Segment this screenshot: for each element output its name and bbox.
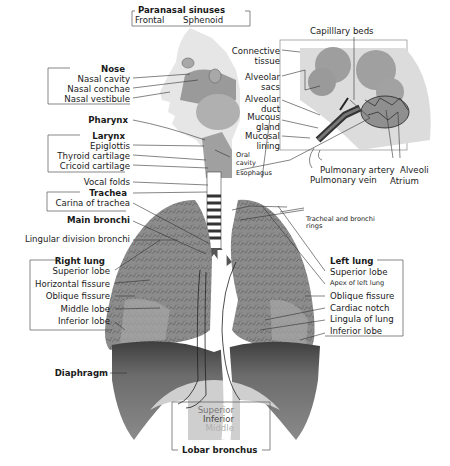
- larynx-title: Larynx: [92, 131, 125, 141]
- lingular-division-bronchi-label: Lingular division bronchi: [25, 234, 130, 244]
- sphenoid-sinus-label: Sphenoid: [183, 15, 223, 25]
- lobar-bronchus-title: Lobar bronchus: [182, 445, 257, 455]
- mucous-gland-label: Mucous gland: [234, 112, 280, 132]
- tracheal-rings-label-2: rings: [306, 223, 322, 231]
- thyroid-cartilage-label: Thyroid cartilage: [57, 151, 130, 161]
- oral-cavity-label: Oral cavity: [236, 152, 266, 167]
- left-oblique-fissure-label: Oblique fissure: [330, 291, 394, 301]
- pharynx-title: Pharynx: [88, 115, 128, 125]
- vocal-folds-label: Vocal folds: [84, 177, 130, 187]
- cardiac-notch-label: Cardiac notch: [330, 303, 389, 313]
- nose-title: Nose: [101, 64, 125, 74]
- trachea-title: Trachea: [89, 188, 127, 198]
- nasal-cavity-label: Nasal cavity: [78, 74, 130, 84]
- right-inferior-lobe-label: Inferior lobe: [58, 316, 110, 326]
- lobar-middle-label: Middle: [206, 423, 234, 433]
- alveolar-duct-label: Alveolar duct: [234, 94, 280, 114]
- alveoli-inset: [280, 40, 431, 150]
- left-inferior-lobe-label: Inferior lobe: [330, 326, 382, 336]
- pulmonary-artery-label: Pulmonary artery: [320, 165, 395, 175]
- pulmonary-vein-label: Pulmonary vein: [310, 175, 377, 185]
- head-section: [160, 28, 240, 178]
- anatomy-artwork: [0, 0, 450, 466]
- esophagus-label: Esophagus: [236, 170, 272, 178]
- apex-left-lung-label: Apex of left lung: [330, 280, 384, 288]
- nasal-vestibule-label: Nasal vestibule: [64, 94, 130, 104]
- right-oblique-fissure-label: Oblique fissure: [46, 291, 110, 301]
- left-lung-title: Left lung: [330, 256, 373, 266]
- capillary-beds-label: Capilllary beds: [310, 26, 374, 36]
- paranasal-sinuses-title: Paranasal sinuses: [138, 5, 225, 15]
- right-superior-lobe-label: Superior lobe: [53, 266, 110, 276]
- respiratory-system-diagram: Paranasal sinuses Frontal Sphenoid Nose …: [0, 0, 450, 466]
- horizontal-fissure-label: Horizontal fissure: [35, 279, 110, 289]
- alveolar-sacs-label: Alveolar sacs: [234, 72, 280, 92]
- carina-label: Carina of trachea: [55, 198, 130, 208]
- lingula-label: Lingula of lung: [330, 314, 394, 324]
- middle-lobe-label: Middle lobe: [60, 304, 110, 314]
- nasal-conchae-label: Nasal conchae: [67, 84, 130, 94]
- atrium-label: Atrium: [390, 176, 419, 186]
- cricoid-cartilage-label: Cricoid cartilage: [60, 161, 130, 171]
- left-superior-lobe-label: Superior lobe: [330, 267, 387, 277]
- right-lung-title: Right lung: [55, 256, 105, 266]
- epiglottis-label: Epiglottis: [90, 141, 130, 151]
- connective-tissue-label: Connective tissue: [230, 46, 280, 66]
- frontal-sinus-label: Frontal: [135, 15, 164, 25]
- mucosal-lining-label: Mucosal lining: [234, 131, 280, 151]
- main-bronchi-title: Main bronchi: [67, 215, 130, 225]
- alveoli-label: Alveoli: [400, 165, 429, 175]
- diaphragm-title: Diaphragm: [55, 368, 108, 378]
